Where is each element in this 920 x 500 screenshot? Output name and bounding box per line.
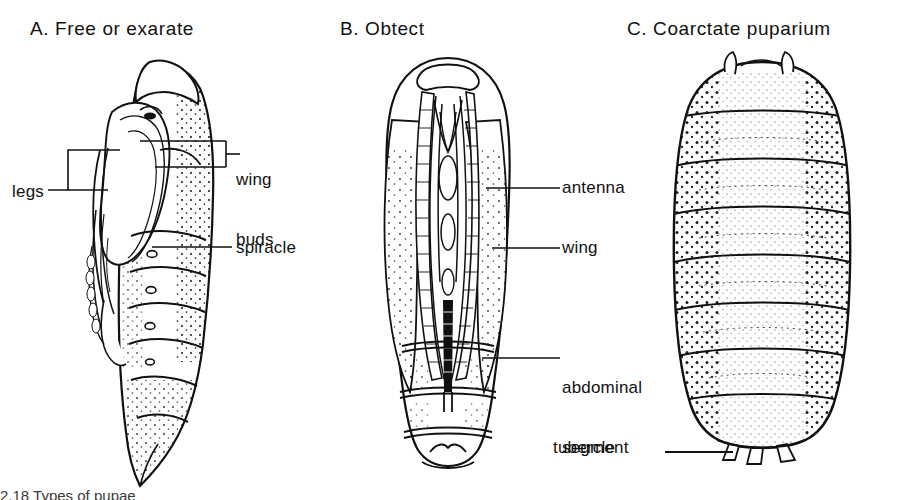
label-legs: legs — [12, 182, 44, 201]
panel-b-obtect: B. Obtect — [310, 0, 605, 500]
panel-b-artwork — [310, 0, 605, 500]
panel-c-artwork — [605, 0, 920, 500]
label-wing-buds: wing buds — [236, 130, 274, 290]
pupae-types-figure: A. Free or exarate — [0, 0, 920, 500]
label-wing: wing — [562, 238, 598, 257]
figure-caption: 2.18 Types of pupae — [0, 487, 920, 500]
panel-a-free-exarate: A. Free or exarate — [0, 0, 310, 500]
label-spiracle: spiracle — [236, 238, 296, 257]
label-wing-buds-line1: wing — [236, 170, 274, 190]
panel-c-coarctate-puparium: C. Coarctate puparium — [605, 0, 920, 500]
label-tubercle: tubercle — [553, 438, 615, 457]
